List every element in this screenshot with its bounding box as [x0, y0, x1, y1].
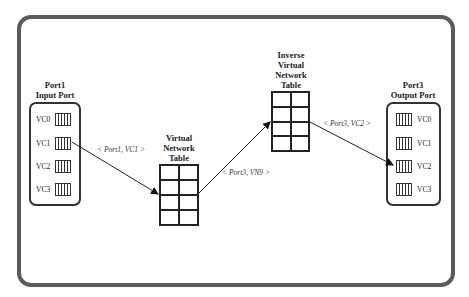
- arrows-layer: [0, 0, 469, 297]
- edge-label-port3-vc2: < Port3, VC2 >: [323, 119, 371, 128]
- arrow-vnt-to-ivnt: [198, 122, 270, 194]
- edge-label-port3-vn9: < Port3, VN9 >: [222, 168, 270, 177]
- arrow-ivnt-to-output: [310, 122, 393, 165]
- edge-label-port1-vc1: < Port1, VC1 >: [97, 145, 145, 154]
